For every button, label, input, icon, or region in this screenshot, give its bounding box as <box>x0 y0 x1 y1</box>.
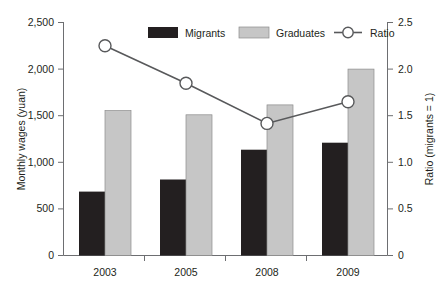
legend-swatch-graduates <box>239 27 269 38</box>
ratio-line <box>105 46 348 124</box>
left-axis <box>58 22 64 256</box>
legend-item-graduates: Graduates <box>239 27 325 39</box>
y-tick-label-1000: 1,000 <box>28 156 54 168</box>
x-tick-label-2003: 2003 <box>93 266 117 278</box>
legend-label-graduates: Graduates <box>276 27 325 39</box>
legend-item-ratio: Ratio <box>334 27 395 39</box>
y2-axis-title: Ratio (migrants = 1) <box>423 93 435 186</box>
ratio-marker-2008 <box>261 117 273 129</box>
bar-graduates-2003 <box>105 111 131 256</box>
y2-tick-label-2.0: 2.0 <box>398 63 413 75</box>
legend-label-ratio: Ratio <box>370 27 395 39</box>
legend-label-migrants: Migrants <box>185 27 225 39</box>
y2-tick-label-2.5: 2.5 <box>398 16 413 28</box>
y2-tick-label-1.0: 1.0 <box>398 156 413 168</box>
legend: Migrants Graduates Ratio <box>148 27 395 39</box>
legend-swatch-ratio-marker <box>343 27 353 37</box>
chart-container: 2,500 2,000 1,500 1,000 500 0 2.5 2.0 1.… <box>0 0 448 291</box>
legend-swatch-migrants <box>148 27 178 38</box>
y-tick-label-1500: 1,500 <box>28 109 54 121</box>
bar-migrants-2005 <box>160 180 186 256</box>
y-tick-label-2500: 2,500 <box>28 16 54 28</box>
right-axis <box>388 22 394 256</box>
x-axis <box>64 256 388 262</box>
bar-group-2003 <box>79 111 131 256</box>
y2-tick-label-0.5: 0.5 <box>398 202 413 214</box>
x-tick-label-2005: 2005 <box>174 266 198 278</box>
ratio-marker-2003 <box>99 40 111 52</box>
bar-migrants-2008 <box>241 150 267 256</box>
ratio-marker-2005 <box>180 77 192 89</box>
y-tick-label-2000: 2,000 <box>28 63 54 75</box>
bar-graduates-2005 <box>186 115 212 256</box>
chart-svg: 2,500 2,000 1,500 1,000 500 0 2.5 2.0 1.… <box>0 0 448 291</box>
bar-migrants-2003 <box>79 192 105 256</box>
y2-tick-label-1.5: 1.5 <box>398 109 413 121</box>
bar-group-2005 <box>160 115 212 256</box>
x-tick-label-2008: 2008 <box>255 266 279 278</box>
y-axis-title: Monthly wages (yuan) <box>15 88 27 191</box>
y2-tick-label-0: 0 <box>398 249 404 261</box>
legend-item-migrants: Migrants <box>148 27 225 39</box>
ratio-marker-2009 <box>342 96 354 108</box>
x-tick-label-2009: 2009 <box>336 266 360 278</box>
bar-migrants-2009 <box>322 143 348 256</box>
y-tick-label-500: 500 <box>36 202 54 214</box>
y-tick-label-0: 0 <box>48 249 54 261</box>
